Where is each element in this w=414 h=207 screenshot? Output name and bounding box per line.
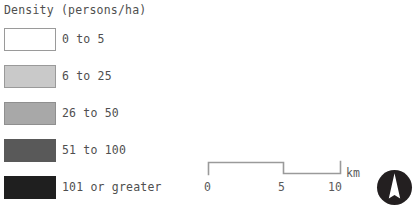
legend-label-6-to-25: 6 to 25 (62, 69, 112, 83)
legend-label-101-or-greater: 101 or greater (62, 180, 162, 194)
legend-swatch-101-or-greater (4, 176, 56, 199)
legend-label-0-to-5: 0 to 5 (62, 32, 105, 46)
scale-bar-graphic (205, 158, 353, 180)
legend-class-item: 26 to 50 (0, 102, 200, 139)
legend-class-item: 101 or greater (0, 176, 200, 207)
map-legend-panel: Density (persons/ha) 0 to 5 6 to 25 26 t… (0, 0, 200, 207)
legend-label-26-to-50: 26 to 50 (62, 106, 119, 120)
legend-swatch-26-to-50 (4, 102, 56, 125)
scale-tick-label-5: 5 (278, 180, 285, 194)
legend-class-item: 51 to 100 (0, 139, 200, 176)
north-arrow-icon (376, 169, 413, 206)
legend-swatch-0-to-5 (4, 28, 56, 51)
scale-unit-label: km (346, 166, 360, 180)
legend-class-item: 0 to 5 (0, 28, 200, 65)
legend-class-item: 6 to 25 (0, 65, 200, 102)
scale-tick-label-0: 0 (204, 180, 211, 194)
legend-swatch-51-to-100 (4, 139, 56, 162)
legend-swatch-6-to-25 (4, 65, 56, 88)
legend-title: Density (persons/ha) (4, 3, 146, 17)
scale-tick-label-10: 10 (328, 180, 342, 194)
legend-label-51-to-100: 51 to 100 (62, 143, 126, 157)
scale-bar: 0 5 10 km (205, 158, 370, 202)
legend-class-list: 0 to 5 6 to 25 26 to 50 51 to 100 101 or… (0, 28, 200, 207)
